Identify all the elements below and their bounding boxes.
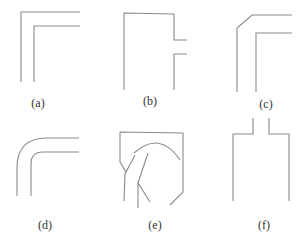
panel-a-sharp-bend-diagram [21, 12, 80, 82]
panel-a-label: (a) [31, 96, 44, 111]
panel-e-guide-vane-diagram [120, 132, 183, 208]
panel-d-rounded-bend-diagram [17, 138, 79, 196]
panel-f-label: (f) [258, 218, 270, 233]
panel-d-label: (d) [38, 218, 52, 233]
figure-canvas [0, 0, 308, 242]
panel-b-label: (b) [143, 94, 157, 109]
panel-f-expansion-diagram [233, 118, 289, 201]
panel-c-chamfered-bend-diagram [237, 15, 292, 92]
panel-c-label: (c) [259, 97, 272, 112]
panel-b-branch-box-diagram [124, 13, 187, 90]
panel-e-label: (e) [148, 218, 161, 233]
